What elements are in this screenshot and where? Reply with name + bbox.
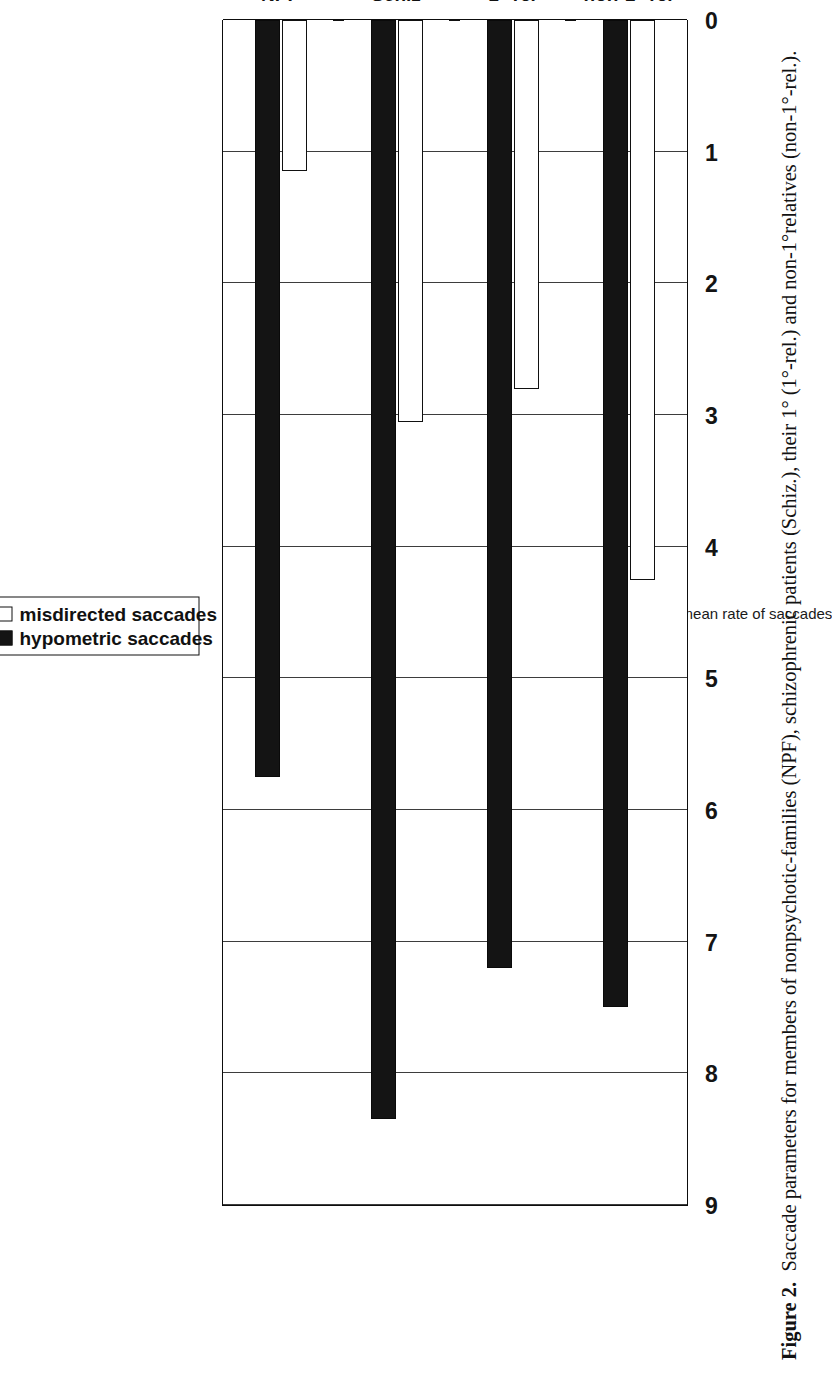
bar-hypometric-Schiz: [371, 20, 396, 1119]
bar-misdirected-Schiz: [398, 20, 423, 422]
figure-caption-text: Figure 2. Saccade parameters for members…: [777, 51, 803, 1360]
bar-misdirected-1°-rel: [514, 20, 539, 389]
figure-caption: Figure 2. Saccade parameters for members…: [764, 0, 816, 1360]
category-label-Schiz: Schiz: [371, 0, 421, 6]
bar-chart: misdirected saccades hypometric saccades…: [0, 12, 740, 1302]
chart-legend: misdirected saccades hypometric saccades: [0, 597, 200, 656]
gridline-8: [223, 1072, 687, 1073]
value-tick-1: 1: [705, 139, 718, 166]
category-tick: [565, 20, 576, 21]
gridline-9: [223, 1204, 687, 1205]
bar-misdirected-non-1°-rel: [630, 20, 655, 580]
bar-hypometric-1°-rel: [487, 20, 512, 968]
value-tick-2: 2: [705, 271, 718, 298]
filled-square-icon: [0, 631, 13, 646]
legend-label-hypometric: hypometric saccades: [20, 629, 213, 648]
bar-misdirected-NPF: [282, 20, 307, 171]
value-tick-7: 7: [705, 929, 718, 956]
category-label-1°-rel: 1°-rel: [488, 0, 536, 6]
category-tick: [449, 20, 460, 21]
bar-hypometric-non-1°-rel: [603, 20, 628, 1008]
bar-hypometric-NPF: [255, 20, 280, 777]
value-tick-5: 5: [705, 666, 718, 693]
value-tick-0: 0: [705, 8, 718, 35]
figure-caption-lead: Figure 2.: [778, 1282, 800, 1360]
open-square-icon: [0, 607, 13, 622]
figure-caption-body: Saccade parameters for members of nonpsy…: [778, 51, 800, 1272]
category-label-NPF: NPF: [261, 0, 299, 6]
value-tick-3: 3: [705, 403, 718, 430]
legend-item-misdirected: misdirected saccades: [0, 605, 190, 624]
value-tick-6: 6: [705, 798, 718, 825]
legend-item-hypometric: hypometric saccades: [0, 629, 190, 648]
value-tick-4: 4: [705, 534, 718, 561]
category-label-non-1°-rel: non-1°-rel: [584, 0, 673, 6]
value-tick-8: 8: [705, 1061, 718, 1088]
plot-area: [222, 20, 688, 1206]
legend-label-misdirected: misdirected saccades: [20, 605, 218, 624]
value-tick-9: 9: [705, 1193, 718, 1220]
category-tick: [333, 20, 344, 21]
